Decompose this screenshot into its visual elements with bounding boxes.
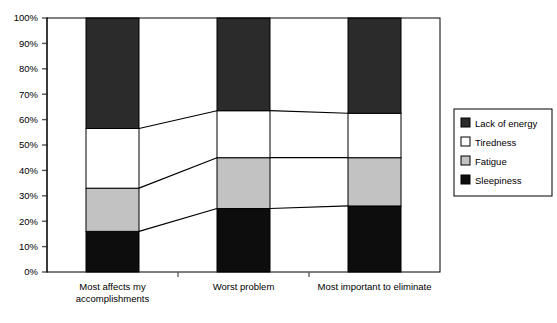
stacked-bar-chart: 0%10%20%30%40%50%60%70%80%90%100% Most a… [0,0,557,323]
x-axis-category-label: accomplishments [76,293,150,304]
bar-segment [217,18,270,111]
y-axis-tick-label: 90% [19,38,39,49]
bar-segment [348,206,401,272]
bar-segment [86,128,139,188]
bar-segment [86,231,139,272]
y-axis-tick-label: 100% [14,12,39,23]
x-axis-category-label: Most affects my [79,281,146,292]
y-axis: 0%10%20%30%40%50%60%70%80%90%100% [14,12,48,277]
x-axis-category-label: Most important to eliminate [317,281,431,292]
y-axis-tick-label: 40% [19,165,39,176]
legend-swatch-fatigue [461,156,470,165]
bar-segment [217,158,270,209]
bar-segment [217,111,270,158]
legend-item-label: Sleepiness [475,175,522,186]
bar-segment [86,18,139,128]
bar-segment [348,158,401,206]
bar-segment [217,209,270,273]
bar-segment [86,188,139,231]
y-axis-tick-label: 60% [19,114,39,125]
y-axis-tick-label: 70% [19,89,39,100]
y-axis-tick-label: 50% [19,139,39,150]
chart-container: 0%10%20%30%40%50%60%70%80%90%100% Most a… [0,0,557,323]
legend-swatch-tiredness [461,137,470,146]
legend-item-label: Tiredness [475,137,517,148]
bar-series-group [86,18,401,272]
bar-segment [348,18,401,113]
bar-segment [348,113,401,157]
y-axis-tick-label: 0% [24,266,38,277]
y-axis-tick-label: 30% [19,190,39,201]
legend-item-label: Lack of energy [475,118,538,129]
y-axis-tick-label: 20% [19,216,39,227]
legend-swatch-sleepiness [461,175,470,184]
x-axis-category-label: Worst problem [213,281,275,292]
y-axis-tick-label: 10% [19,241,39,252]
legend-item-label: Fatigue [475,156,507,167]
y-axis-tick-label: 80% [19,63,39,74]
x-axis: Most affects myaccomplishmentsWorst prob… [76,272,432,304]
chart-legend: Lack of energyTirednessFatigueSleepiness [454,109,552,196]
legend-swatch-lack-of-energy [461,118,470,127]
